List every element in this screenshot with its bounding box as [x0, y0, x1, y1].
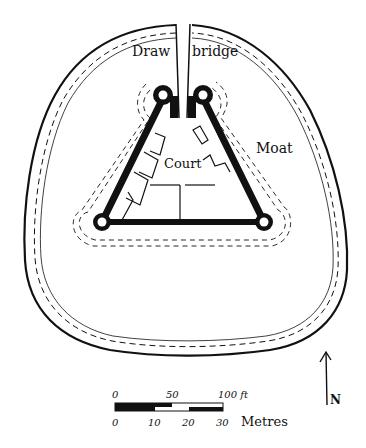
internal-buildings [122, 126, 230, 220]
plan-drawing [0, 0, 366, 448]
scale-m-20: 20 [182, 418, 195, 428]
castle-plan-diagram: Draw bridge Court Moat N 0 50 100 ft 0 1… [0, 0, 366, 448]
scale-ft-100: 100 ft [218, 390, 248, 400]
drawbridge [176, 24, 190, 118]
scale-bar [115, 403, 223, 411]
label-court: Court [164, 157, 202, 170]
label-north: N [330, 394, 341, 406]
scale-m-10: 10 [148, 418, 161, 428]
moat-outline [24, 25, 347, 356]
scale-ft-0: 0 [112, 390, 118, 400]
label-moat: Moat [256, 141, 293, 155]
label-bridge: bridge [192, 44, 238, 58]
scale-metres-unit: Metres [241, 415, 288, 428]
scale-m-0: 0 [112, 418, 118, 428]
scale-ft-50: 50 [166, 390, 179, 400]
label-draw: Draw [132, 44, 170, 58]
scale-m-30: 30 [216, 418, 229, 428]
